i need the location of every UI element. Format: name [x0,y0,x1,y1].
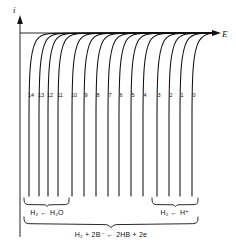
curve-11 [58,33,214,196]
curve-number-4: 4 [143,93,146,99]
curve-number-7: 7 [108,93,111,99]
curve-number-10: 10 [71,93,77,99]
x-axis-label: E [222,30,228,39]
bracket-bottom [24,217,198,228]
curve-4 [143,33,214,196]
curve-number-13: 13 [38,93,44,99]
curve-number-8: 8 [96,93,99,99]
curve-group [29,33,214,196]
right-bracket-label: H₂ ← H⁺ [160,209,189,216]
curve-number-14: 14 [28,93,34,99]
curve-number-0: 0 [192,93,195,99]
curve-number-11: 11 [57,93,63,99]
curve-number-9: 9 [84,93,87,99]
polarographic-wave-figure: i E 14 13 12 11 10 9 8 7 6 5 4 3 2 1 0 H… [0,0,236,250]
curve-number-1: 1 [180,93,183,99]
curve-number-2: 2 [169,93,172,99]
curve-1 [180,33,214,196]
curve-3 [157,33,214,196]
y-axis [17,15,23,237]
curve-number-12: 12 [47,93,53,99]
curve-8 [96,33,214,196]
left-bracket-label: H₂ ← H₂O [30,209,63,216]
curve-number-5: 5 [131,93,134,99]
curve-number-3: 3 [157,93,160,99]
curve-0 [192,33,214,196]
curve-7 [108,33,214,196]
bracket-left [24,198,69,206]
curve-13 [39,33,214,196]
bottom-bracket-label: H₂ + 2B⁻ ← 2HB + 2e [75,231,147,238]
curve-number-6: 6 [119,93,122,99]
y-axis-label: i [13,6,16,15]
bracket-right [152,198,198,206]
